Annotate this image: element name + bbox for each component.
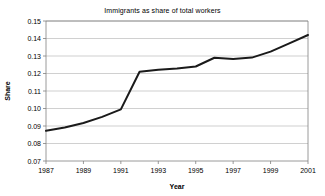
y-tick-label: 0.10 [27, 105, 41, 112]
x-tick-label: 1995 [188, 167, 204, 174]
gridlines [46, 21, 308, 144]
y-tick-label: 0.13 [27, 53, 41, 60]
y-tick-label: 0.12 [27, 70, 41, 77]
x-tick-label: 1993 [150, 167, 166, 174]
x-axis-title: Year [170, 183, 185, 190]
x-axis-ticks: 19871989199119931995199719992001 [38, 161, 316, 174]
series-line [46, 35, 308, 131]
x-tick-label: 1989 [76, 167, 92, 174]
y-tick-label: 0.09 [27, 123, 41, 130]
chart-container: Immigrants as share of total workers 0.1… [0, 0, 325, 196]
x-tick-label: 1999 [263, 167, 279, 174]
data-series [46, 35, 308, 131]
y-tick-label: 0.07 [27, 158, 41, 165]
x-tick-label: 1997 [225, 167, 241, 174]
y-tick-label: 0.11 [28, 88, 41, 95]
y-axis-title-text: Share [4, 81, 11, 101]
y-tick-label: 0.14 [27, 35, 41, 42]
x-tick-label: 1991 [113, 167, 129, 174]
y-axis-title: Share [4, 81, 11, 101]
x-axis-title-text: Year [170, 183, 185, 190]
x-tick-label: 2001 [300, 167, 316, 174]
x-tick-label: 1987 [38, 167, 54, 174]
y-tick-label: 0.08 [27, 140, 41, 147]
y-tick-label: 0.15 [27, 18, 41, 25]
y-axis-ticks: 0.150.140.130.120.110.100.090.080.07 [27, 18, 46, 165]
line-chart-plot: 0.150.140.130.120.110.100.090.080.07 198… [0, 0, 325, 196]
